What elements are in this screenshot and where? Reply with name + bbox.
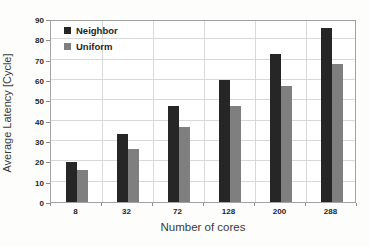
h-gridline — [51, 181, 355, 182]
y-tick-label: 60 — [16, 77, 44, 86]
y-tick-label: 70 — [16, 57, 44, 66]
y-tick-mark — [46, 20, 50, 21]
bar-neighbor-72 — [168, 106, 179, 202]
x-axis-title: Number of cores — [50, 221, 356, 233]
y-tick-label: 0 — [16, 199, 44, 208]
y-tick-mark — [46, 162, 50, 163]
bar-neighbor-8 — [66, 162, 77, 202]
y-tick-mark — [46, 183, 50, 184]
y-tick-mark — [46, 142, 50, 143]
y-axis-title: Average Latency [Cycle] — [1, 28, 17, 198]
x-tick-mark — [305, 203, 306, 206]
legend-label-uniform: Uniform — [76, 41, 112, 52]
x-tick-label: 288 — [305, 207, 356, 216]
neighbor-series-swatch-icon — [64, 27, 71, 34]
h-gridline — [51, 120, 355, 121]
y-tick-mark — [46, 40, 50, 41]
x-tick-mark — [101, 203, 102, 206]
y-tick-mark — [46, 61, 50, 62]
h-gridline — [51, 140, 355, 141]
x-tick-mark — [254, 203, 255, 206]
h-gridline — [51, 79, 355, 80]
y-tick-mark — [46, 81, 50, 82]
x-tick-label: 32 — [101, 207, 152, 216]
legend: Neighbor Uniform — [64, 25, 118, 52]
v-gridline — [306, 21, 307, 202]
y-tick-label: 10 — [16, 179, 44, 188]
uniform-series-swatch-icon — [64, 43, 71, 50]
plot-area: Neighbor Uniform — [50, 20, 356, 203]
y-tick-label: 80 — [16, 36, 44, 45]
y-tick-label: 40 — [16, 118, 44, 127]
x-tick-label: 200 — [254, 207, 305, 216]
legend-item-uniform: Uniform — [64, 41, 118, 52]
y-tick-label: 20 — [16, 158, 44, 167]
bar-uniform-72 — [179, 127, 190, 202]
x-tick-mark — [152, 203, 153, 206]
x-tick-label: 72 — [152, 207, 203, 216]
y-tick-mark — [46, 122, 50, 123]
bar-uniform-288 — [332, 64, 343, 202]
h-gridline — [51, 160, 355, 161]
y-tick-label: 50 — [16, 97, 44, 106]
bar-neighbor-128 — [219, 80, 230, 202]
v-gridline — [204, 21, 205, 202]
bar-uniform-32 — [128, 149, 139, 202]
bar-neighbor-32 — [117, 134, 128, 202]
bar-neighbor-200 — [270, 54, 281, 202]
x-tick-mark — [50, 203, 51, 206]
legend-item-neighbor: Neighbor — [64, 25, 118, 36]
y-tick-mark — [46, 101, 50, 102]
x-tick-mark — [356, 203, 357, 206]
bar-uniform-200 — [281, 86, 292, 202]
y-tick-label: 30 — [16, 138, 44, 147]
y-tick-label: 90 — [16, 16, 44, 25]
x-tick-label: 128 — [203, 207, 254, 216]
bar-neighbor-288 — [321, 28, 332, 202]
v-gridline — [153, 21, 154, 202]
h-gridline — [51, 99, 355, 100]
x-tick-mark — [203, 203, 204, 206]
bar-uniform-128 — [230, 106, 241, 202]
x-tick-label: 8 — [50, 207, 101, 216]
v-gridline — [255, 21, 256, 202]
legend-label-neighbor: Neighbor — [76, 25, 118, 36]
h-gridline — [51, 59, 355, 60]
bar-uniform-8 — [77, 170, 88, 202]
latency-bar-chart: Average Latency [Cycle] Neighbor Uniform… — [0, 0, 370, 246]
